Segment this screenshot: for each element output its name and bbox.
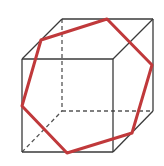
- cube-edge: [113, 19, 153, 59]
- cube-diagram: [0, 0, 164, 166]
- hidden-edge: [22, 111, 62, 152]
